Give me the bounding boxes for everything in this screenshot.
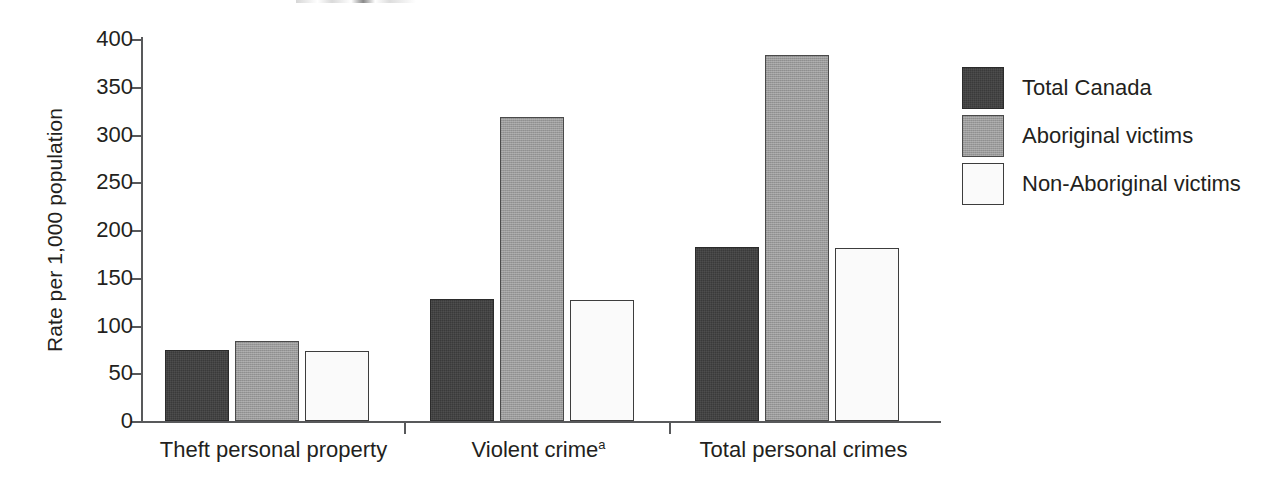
legend-color-swatch (962, 163, 1004, 205)
x-axis-category-label: Theft personal property (141, 437, 406, 463)
y-axis-tick-label: 0 (121, 410, 133, 432)
y-axis-tick-label: 150 (96, 267, 133, 289)
y-axis-tick-label: 200 (96, 219, 133, 241)
bar[interactable] (165, 350, 229, 421)
legend-item[interactable]: Non-Aboriginal victims (962, 160, 1241, 208)
y-axis-tick-label: 250 (96, 171, 133, 193)
bar-chart-figure: Rate per 1,000 population 05010015020025… (0, 0, 1266, 479)
bar[interactable] (305, 351, 369, 421)
bar[interactable] (430, 299, 494, 421)
category-separator (669, 421, 671, 434)
y-axis-tick-label: 50 (109, 362, 133, 384)
scan-artifact (296, 0, 416, 3)
legend-item[interactable]: Aboriginal victims (962, 112, 1241, 160)
plot-area: 050100150200250300350400 (141, 39, 940, 421)
bar-group (165, 39, 369, 421)
footnote-marker: a (598, 437, 605, 452)
bar-group (430, 39, 634, 421)
x-axis-line (141, 421, 941, 423)
category-separator (404, 421, 406, 434)
y-axis-tick-label: 350 (96, 76, 133, 98)
bar[interactable] (570, 300, 634, 421)
legend-item-label: Total Canada (1022, 75, 1152, 101)
legend-item-label: Non-Aboriginal victims (1022, 171, 1241, 197)
legend-color-swatch (962, 67, 1004, 109)
bar[interactable] (500, 117, 564, 421)
legend-item-label: Aboriginal victims (1022, 123, 1193, 149)
bar[interactable] (835, 248, 899, 421)
bar[interactable] (695, 247, 759, 421)
bar[interactable] (765, 55, 829, 421)
legend-color-swatch (962, 115, 1004, 157)
y-axis-tick-label: 400 (96, 28, 133, 50)
x-axis-category-label: Violent crimea (406, 437, 671, 463)
y-axis-tick-label: 300 (96, 124, 133, 146)
x-axis-category-label: Total personal crimes (671, 437, 936, 463)
y-axis-tick-label: 100 (96, 315, 133, 337)
chart-legend: Total CanadaAboriginal victimsNon-Aborig… (962, 64, 1241, 208)
legend-item[interactable]: Total Canada (962, 64, 1241, 112)
bar-group (695, 39, 899, 421)
bar[interactable] (235, 341, 299, 421)
y-axis-title: Rate per 1,000 population (43, 65, 67, 395)
